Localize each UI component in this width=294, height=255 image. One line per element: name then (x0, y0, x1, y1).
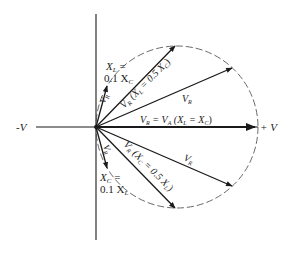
negative-v-label: -V (16, 121, 28, 133)
vr-equals-va-label: VR = VA (XL = XC) (140, 114, 212, 126)
phasor-vr-half-bot (96, 127, 175, 208)
xc-small-label-line2: 0.1 XL (100, 183, 128, 197)
phasor-diagram: -V + V XL = 0.1 XC VR VR(XL = 0.5 XC) VR… (0, 0, 294, 255)
xl-small-label-line2: 0.1 XC (104, 72, 133, 86)
vr-upper-label: VR (182, 93, 192, 105)
vr-small-bot-label: VR (100, 143, 114, 156)
positive-v-label: + V (260, 121, 278, 133)
origin-point (94, 125, 98, 129)
vr-half-bot-label: VR(XC = 0.5 XL) (121, 139, 176, 194)
